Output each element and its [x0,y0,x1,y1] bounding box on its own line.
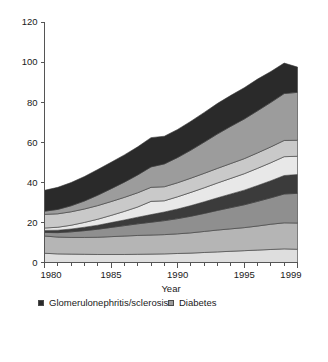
y-tick-label: 40 [27,177,38,188]
y-tick-label: 100 [22,56,38,67]
legend-item[interactable]: Diabetes [168,296,328,311]
x-tick-label: 1985 [101,269,122,280]
chart-legend: Glomerulonephritis/sclerosisDiabetesPyel… [38,296,328,311]
stacked-area-chart: 02040608010012019801985199019951999Year … [0,0,328,362]
x-tick-label: 1999 [280,269,301,280]
chart-bands [45,63,298,262]
legend-item-label: Diabetes [179,296,217,311]
legend-swatch-icon [38,300,44,306]
legend-item[interactable]: Glomerulonephritis/sclerosis [38,296,168,311]
y-tick-label: 60 [27,137,38,148]
y-tick-label: 120 [22,16,38,27]
legend-item-label: Glomerulonephritis/sclerosis [49,296,168,311]
x-tick-label: 1995 [234,269,255,280]
y-tick-label: 0 [32,257,37,268]
x-axis-title: Year [161,283,180,294]
legend-swatch-icon [168,300,174,306]
x-tick-label: 1980 [41,269,62,280]
y-tick-label: 80 [27,97,38,108]
y-tick-label: 20 [27,217,38,228]
x-tick-label: 1990 [167,269,188,280]
